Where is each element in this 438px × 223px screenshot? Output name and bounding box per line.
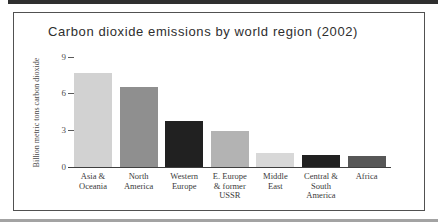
bar-western-europe bbox=[165, 121, 203, 168]
figure: Carbon dioxide emissions by world region… bbox=[0, 0, 438, 223]
y-tick-label: 9 bbox=[52, 53, 66, 62]
x-axis-line bbox=[68, 167, 391, 168]
bar-north-america bbox=[120, 87, 158, 168]
top-rule bbox=[8, 0, 438, 4]
y-tick-label: 0 bbox=[52, 163, 66, 172]
y-axis-label: Billion metric tons carbon dioxide bbox=[32, 48, 41, 178]
bar-central-south-america bbox=[302, 155, 340, 167]
bottom-rule bbox=[0, 219, 438, 222]
bar-africa bbox=[348, 156, 386, 167]
y-tick-mark bbox=[68, 57, 74, 58]
bar-asia-oceania bbox=[74, 73, 112, 167]
y-tick-label: 6 bbox=[52, 89, 66, 98]
bar-e-europe-former-ussr bbox=[211, 131, 249, 168]
category-label: Africa bbox=[336, 172, 398, 182]
bar-middle-east bbox=[256, 153, 294, 168]
chart-title: Carbon dioxide emissions by world region… bbox=[48, 24, 358, 39]
y-tick-label: 3 bbox=[52, 126, 66, 135]
